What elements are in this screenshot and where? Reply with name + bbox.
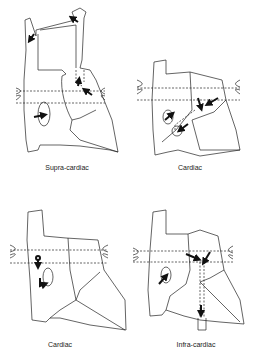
tapvc-diagram xyxy=(0,0,253,356)
heart-infra-cardiac xyxy=(133,210,244,330)
heart-cardiac-1 xyxy=(137,60,240,156)
label-cardiac-2: Cardiac xyxy=(48,341,72,348)
label-infra-cardiac: Infra-cardiac xyxy=(177,341,216,348)
label-supra-cardiac: Supra-cardiac xyxy=(45,164,89,171)
heart-cardiac-2 xyxy=(10,210,126,330)
label-cardiac-1: Cardiac xyxy=(178,164,202,171)
heart-supra-cardiac xyxy=(16,8,118,152)
